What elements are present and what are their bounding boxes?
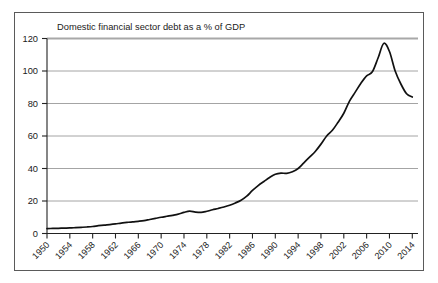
x-tick-label: 1950 (30, 240, 51, 261)
y-tick-label: 100 (22, 66, 38, 76)
chart-title: Domestic financial sector debt as a % of… (57, 22, 245, 32)
x-tick-label: 2010 (373, 240, 394, 261)
x-tick-label: 1974 (167, 240, 188, 261)
x-tick-label: 1966 (122, 240, 143, 261)
y-tick-label: 60 (28, 131, 38, 141)
x-tick-label: 1982 (213, 240, 234, 261)
x-tick-label: 1994 (281, 240, 302, 261)
line-chart: 020406080100120 195019541958196219661970… (15, 13, 423, 270)
x-tick-label: 1998 (304, 240, 325, 261)
y-tick-label: 120 (22, 34, 38, 44)
x-tick-label: 1962 (99, 240, 120, 261)
x-tick-label: 2006 (350, 240, 371, 261)
x-tick-label: 1954 (53, 240, 74, 261)
y-tick-label: 20 (28, 196, 38, 206)
x-tick-label: 1978 (190, 240, 211, 261)
x-tick-label: 1970 (144, 240, 165, 261)
chart-border: 020406080100120 195019541958196219661970… (14, 12, 424, 271)
x-axis-ticks: 1950195419581962196619701974197819821986… (30, 234, 417, 262)
x-tick-label: 1958 (76, 240, 97, 261)
x-tick-label: 2002 (327, 240, 348, 261)
y-tick-label: 0 (33, 229, 38, 239)
y-tick-label: 40 (28, 164, 38, 174)
x-tick-label: 2014 (395, 240, 416, 261)
y-axis-ticks: 020406080100120 (22, 34, 47, 239)
x-tick-label: 1986 (236, 240, 257, 261)
gridlines-group (47, 39, 418, 202)
x-tick-label: 1990 (258, 240, 279, 261)
chart-figure: 020406080100120 195019541958196219661970… (0, 0, 438, 283)
y-tick-label: 80 (28, 99, 38, 109)
